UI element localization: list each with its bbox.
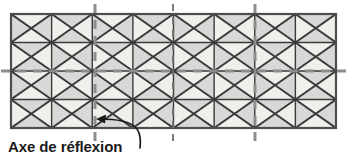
figure-container: Axe de réflexion: [0, 0, 349, 167]
axis-caption-label: Axe de réflexion: [8, 138, 122, 155]
